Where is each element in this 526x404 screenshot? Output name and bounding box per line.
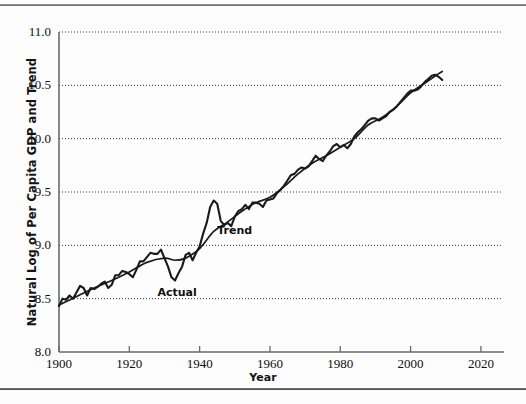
- series-line-actual: [59, 75, 442, 306]
- x-tick-label: 1900: [29, 356, 89, 372]
- x-tick-label: 1940: [170, 356, 230, 372]
- x-tick-label: 2000: [381, 356, 441, 372]
- x-tick-label: 2020: [451, 356, 511, 372]
- series-line-trend: [59, 71, 442, 305]
- x-axis-title: Year: [0, 371, 526, 384]
- x-tick-label: 1980: [310, 356, 370, 372]
- gridlines-group: [59, 32, 502, 299]
- y-axis-title: Natural Log of Per Capita GDP and Trend: [25, 42, 39, 342]
- figure-canvas: 8.08.59.09.510.010.511.0 190019201940196…: [0, 0, 526, 404]
- x-tick-marks-group: [59, 346, 481, 352]
- x-tick-label: 1960: [240, 356, 300, 372]
- annotation-trend: Trend: [217, 224, 252, 237]
- chart-plot-area: [0, 0, 526, 404]
- annotation-actual: Actual: [157, 286, 196, 299]
- y-tick-label: 11.0: [7, 24, 51, 40]
- data-series-group: [59, 71, 442, 306]
- x-tick-label: 1920: [99, 356, 159, 372]
